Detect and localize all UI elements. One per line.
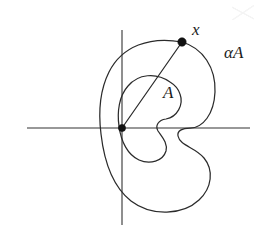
math-figure: x αA A: [0, 0, 277, 233]
point-x-dot: [178, 38, 186, 46]
label-inner-set-a: A: [163, 84, 173, 101]
label-point-x: x: [192, 21, 200, 38]
origin-point-dot: [118, 124, 125, 131]
label-outer-set-alpha-a: αA: [224, 44, 243, 61]
figure-canvas: [0, 0, 277, 233]
